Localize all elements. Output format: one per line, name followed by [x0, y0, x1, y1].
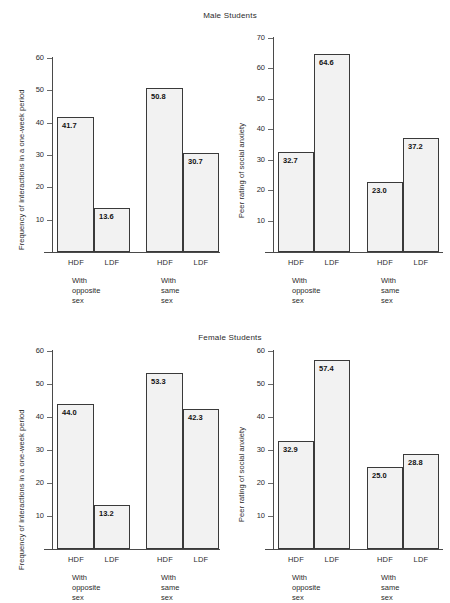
y-tick-20	[47, 483, 52, 484]
y-tick-60	[268, 351, 273, 352]
chart-male-anxiety: Peer rating of social anxiety 70 60 50 4…	[228, 0, 450, 300]
bar-value-ldf-same: 30.7	[188, 157, 203, 166]
y-tick-label-60: 60	[22, 346, 44, 355]
group-label-opposite-line1: With	[292, 276, 320, 286]
y-tick-label-30: 30	[243, 155, 265, 164]
bar-value-ldf-opposite: 57.4	[319, 364, 334, 373]
x-tick-label-hdf-opposite: HDF	[60, 258, 92, 267]
y-axis-title: Frequency of interactions in a one-week …	[17, 409, 26, 570]
group-label-opposite-line2: opposite	[292, 583, 320, 593]
bar-ldf-opposite	[314, 54, 350, 252]
x-tick-label-ldf-opposite: LDF	[96, 555, 128, 564]
y-tick-50	[47, 90, 52, 91]
x-axis-line	[44, 549, 220, 550]
y-tick-label-30: 30	[22, 445, 44, 454]
y-tick-label-30: 30	[22, 150, 44, 159]
bar-value-ldf-same: 28.8	[408, 458, 423, 467]
y-tick-10	[47, 220, 52, 221]
y-tick-60	[268, 68, 273, 69]
y-tick-10	[268, 221, 273, 222]
group-label-same: With same sex	[161, 573, 179, 603]
chart-male-frequency: Frequency of interactions in a one-week …	[0, 0, 230, 300]
group-label-opposite-line3: sex	[72, 296, 100, 306]
y-tick-60	[47, 351, 52, 352]
x-tick-label-ldf-same: LDF	[405, 555, 437, 564]
x-tick-label-hdf-opposite: HDF	[60, 555, 92, 564]
x-axis-line	[265, 549, 443, 550]
group-label-same-line2: same	[381, 286, 399, 296]
bar-ldf-same	[403, 454, 439, 549]
group-label-same: With same sex	[381, 276, 399, 306]
panel-group-male: Male Students Frequency of interactions …	[0, 0, 450, 300]
group-label-opposite: With opposite sex	[292, 573, 320, 603]
x-tick-label-hdf-same: HDF	[149, 258, 181, 267]
x-axis-line	[265, 252, 443, 253]
bar-value-ldf-same: 42.3	[188, 413, 203, 422]
y-tick-label-10: 10	[22, 215, 44, 224]
y-tick-10	[268, 516, 273, 517]
group-label-opposite-line2: opposite	[292, 286, 320, 296]
group-label-opposite-line1: With	[72, 276, 100, 286]
y-tick-40	[268, 417, 273, 418]
bar-value-hdf-same: 25.0	[372, 471, 387, 480]
x-axis-line	[44, 252, 220, 253]
group-label-opposite-line3: sex	[72, 593, 100, 603]
group-label-same-line1: With	[381, 573, 399, 583]
bar-ldf-same	[183, 153, 219, 252]
y-axis-line	[273, 350, 274, 550]
bar-value-hdf-opposite: 32.7	[283, 156, 298, 165]
y-axis-line	[273, 37, 274, 253]
bar-hdf-same	[146, 88, 183, 252]
x-tick-label-hdf-same: HDF	[149, 555, 181, 564]
y-tick-label-60: 60	[22, 53, 44, 62]
group-label-opposite-line2: opposite	[72, 286, 100, 296]
bar-value-hdf-opposite: 32.9	[283, 445, 298, 454]
group-label-same: With same sex	[381, 573, 399, 603]
group-label-same-line2: same	[161, 583, 179, 593]
y-tick-70	[268, 38, 273, 39]
y-tick-label-50: 50	[243, 379, 265, 388]
group-label-opposite: With opposite sex	[72, 573, 100, 603]
chart-female-frequency: Frequency of interactions in a one-week …	[0, 322, 230, 598]
y-tick-30	[268, 160, 273, 161]
group-label-same: With same sex	[161, 276, 179, 306]
bar-value-hdf-same: 53.3	[151, 377, 166, 386]
x-tick-label-ldf-same: LDF	[405, 258, 437, 267]
bar-ldf-opposite	[314, 360, 350, 549]
y-tick-40	[268, 129, 273, 130]
group-label-opposite-line3: sex	[292, 296, 320, 306]
y-tick-label-40: 40	[243, 124, 265, 133]
x-tick-label-hdf-opposite: HDF	[280, 258, 312, 267]
y-tick-label-20: 20	[22, 182, 44, 191]
y-tick-30	[47, 450, 52, 451]
group-label-opposite-line3: sex	[292, 593, 320, 603]
group-label-same-line3: sex	[381, 296, 399, 306]
y-tick-20	[268, 483, 273, 484]
group-label-same-line1: With	[161, 573, 179, 583]
chart-female-anxiety: Peer rating of social anxiety 60 50 40 3…	[228, 322, 450, 598]
y-tick-label-40: 40	[243, 412, 265, 421]
x-tick-label-hdf-opposite: HDF	[280, 555, 312, 564]
bar-value-ldf-opposite: 13.2	[99, 509, 114, 518]
group-label-same-line2: same	[381, 583, 399, 593]
y-tick-label-40: 40	[22, 118, 44, 127]
group-label-same-line1: With	[161, 276, 179, 286]
y-tick-30	[47, 155, 52, 156]
y-tick-50	[268, 99, 273, 100]
x-tick-label-hdf-same: HDF	[369, 258, 401, 267]
y-tick-label-70: 70	[243, 33, 265, 42]
y-tick-20	[47, 187, 52, 188]
y-tick-label-50: 50	[22, 379, 44, 388]
y-tick-label-50: 50	[22, 85, 44, 94]
x-tick-label-hdf-same: HDF	[369, 555, 401, 564]
y-tick-label-10: 10	[243, 511, 265, 520]
y-tick-60	[47, 58, 52, 59]
y-axis-title: Frequency of interactions in a one-week …	[17, 89, 26, 250]
bar-hdf-opposite	[278, 441, 314, 549]
y-tick-50	[268, 384, 273, 385]
y-tick-label-50: 50	[243, 94, 265, 103]
bar-hdf-same	[146, 373, 183, 549]
y-axis-line	[52, 350, 53, 550]
bar-hdf-opposite	[57, 117, 94, 252]
